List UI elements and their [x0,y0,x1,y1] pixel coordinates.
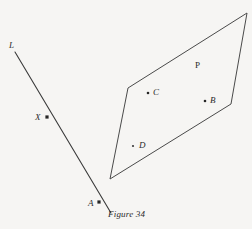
point-marker-c [147,92,150,95]
label-point-a: A [88,199,94,208]
line-l [15,52,111,213]
point-marker-x [45,115,48,118]
label-point-c: C [153,88,159,97]
label-line-l: L [9,41,14,50]
label-point-b: B [210,96,216,105]
label-point-d: D [139,141,146,150]
label-plane-p: P [195,61,200,70]
geometry-figure: L P X A C B D Figure 34 [0,0,252,229]
plane-p-quadrilateral [110,13,247,179]
point-marker-d [132,145,134,147]
figure-caption: Figure 34 [108,209,145,219]
point-marker-b [204,100,207,103]
label-point-x: X [35,113,41,122]
point-marker-a [97,200,100,203]
